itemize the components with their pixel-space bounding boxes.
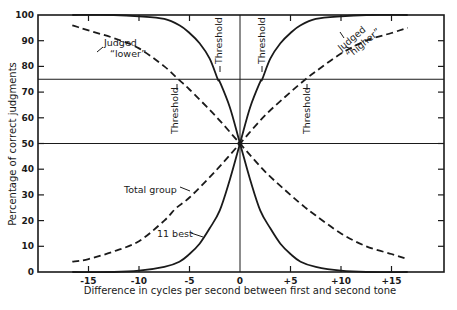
y-tick-label: 60 xyxy=(21,113,34,123)
total-group-label: Total group xyxy=(123,184,177,195)
judged-lower-arrow xyxy=(97,47,103,52)
threshold-label-1: Threshold xyxy=(169,87,180,135)
judged-higher-arrow xyxy=(340,32,344,38)
y-tick-label: 100 xyxy=(15,10,34,20)
y-tick-label: 30 xyxy=(21,190,34,200)
judged-lower-label: Judged xyxy=(103,37,137,48)
x-axis-title: Difference in cycles per second between … xyxy=(84,285,396,296)
judged-higher-annotation: Judged “higher” xyxy=(335,17,383,62)
y-tick-label: 0 xyxy=(28,267,34,277)
threshold-label-3: Threshold xyxy=(256,17,267,65)
y-tick-label: 20 xyxy=(21,216,34,226)
y-tick-label: 70 xyxy=(21,87,34,97)
total-group-arrow xyxy=(180,187,190,191)
threshold-label-4: Threshold xyxy=(301,87,312,135)
eleven-best-label: 11 best xyxy=(157,228,193,239)
intersection-point xyxy=(238,141,243,146)
y-axis-title: Percentage of correct judgments xyxy=(7,62,18,226)
axis-ticks: 0102030405060708090100-15-10-50+5+10+15 xyxy=(15,10,444,286)
y-tick-label: 90 xyxy=(21,36,34,46)
y-tick-label: 40 xyxy=(21,164,34,174)
y-tick-label: 80 xyxy=(21,61,34,71)
y-tick-label: 10 xyxy=(21,241,34,251)
eleven-best-arrow xyxy=(191,233,203,237)
threshold-label-2: Threshold xyxy=(213,17,224,65)
judged-lower-label-2: “lower” xyxy=(110,48,146,59)
psychometric-chart: 0102030405060708090100-15-10-50+5+10+15 … xyxy=(0,0,457,310)
y-tick-label: 50 xyxy=(21,139,34,149)
